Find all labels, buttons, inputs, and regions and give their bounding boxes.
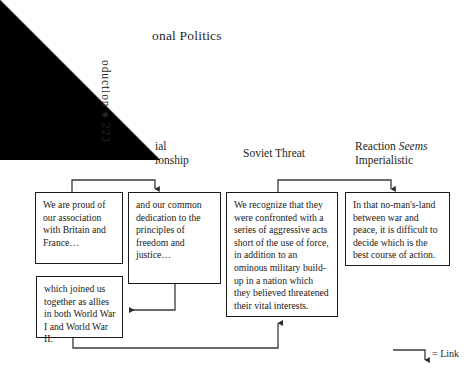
diagram-node-dedication: and our common dedication to the princip… bbox=[128, 192, 221, 284]
link-recognize-to-nomansland bbox=[278, 180, 391, 192]
legend-label: = Link bbox=[432, 348, 459, 359]
diagram-node-proud: We are proud of our association with Bri… bbox=[35, 192, 123, 264]
link-proud-to-dedication bbox=[72, 180, 155, 192]
diagram-node-allies: which joined us together as allies in bo… bbox=[36, 276, 123, 338]
folio-margin-text: oduction ● 223 bbox=[100, 60, 112, 143]
link-dedication-to-allies bbox=[130, 284, 175, 310]
column-heading-relationship: ial ionship bbox=[155, 139, 189, 167]
diagram-node-nomansland: In that no-man's-land between war and pe… bbox=[345, 192, 450, 266]
legend: = Link bbox=[392, 344, 472, 372]
heading-reaction-prefix: Reaction bbox=[355, 140, 399, 152]
column-heading-soviet-threat: Soviet Threat bbox=[243, 146, 305, 160]
scan-black-corner-artifact bbox=[0, 0, 160, 160]
heading-reaction-italic: Seems bbox=[399, 140, 428, 152]
diagram-node-recognize: We recognize that they were confronted w… bbox=[226, 192, 338, 317]
column-heading-reaction-imperialistic: Reaction Seems Imperialistic bbox=[355, 139, 465, 167]
scanned-book-page: onal Politics oduction ● 223 ial ionship… bbox=[0, 0, 472, 384]
heading-reaction-suffix: Imperialistic bbox=[355, 154, 413, 166]
running-head: onal Politics bbox=[152, 28, 222, 44]
